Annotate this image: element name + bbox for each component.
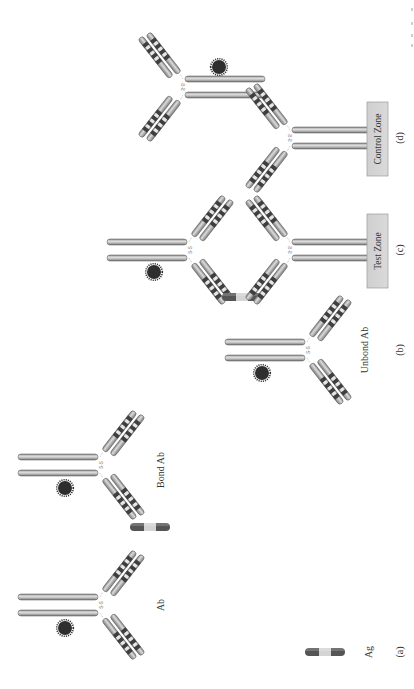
- panel-label-d: (d): [394, 132, 406, 144]
- label-ag: Ag: [363, 646, 374, 658]
- label-marker-icon: [146, 264, 163, 281]
- panel-label-c: (c): [394, 244, 406, 255]
- control-zone: Control Zone: [367, 102, 388, 176]
- label-marker-icon: [57, 620, 74, 637]
- edge-marks: [411, 8, 413, 47]
- panel-c: Test Zone (c): [107, 195, 406, 305]
- label-marker-icon: [211, 59, 228, 76]
- control-zone-label: Control Zone: [373, 114, 383, 165]
- label-bond-ab: Bond Ab: [155, 452, 166, 488]
- panel-b: Bond Ab Unbond Ab (b): [18, 295, 406, 531]
- panel-d: Control Zone (d): [138, 32, 406, 193]
- antigen-ag-icon: [305, 648, 345, 656]
- bound-antigen-icon: [130, 523, 170, 531]
- antibody-bond-ab: [18, 410, 145, 520]
- antibody-ab: [18, 550, 145, 660]
- antibody-detection: [107, 195, 234, 305]
- test-zone-label: Test Zone: [373, 232, 383, 270]
- lateral-flow-immunoassay-diagram: S-S Ab Ag (a) Bond Ab: [0, 0, 414, 689]
- label-unbond-ab: Unbond Ab: [359, 327, 370, 373]
- panel-a: Ab Ag (a): [18, 550, 406, 660]
- antibody-capture-control: [245, 83, 372, 193]
- panel-label-a: (a): [394, 646, 406, 657]
- antibody-labeled-control: [138, 32, 265, 142]
- label-marker-icon: [57, 480, 74, 497]
- antibody-capture-test: [245, 195, 372, 305]
- antibody-unbond-ab: [225, 295, 352, 405]
- label-ab: Ab: [155, 599, 166, 611]
- test-zone: Test Zone: [367, 214, 388, 288]
- label-marker-icon: [254, 365, 271, 382]
- panel-label-b: (b): [394, 344, 406, 356]
